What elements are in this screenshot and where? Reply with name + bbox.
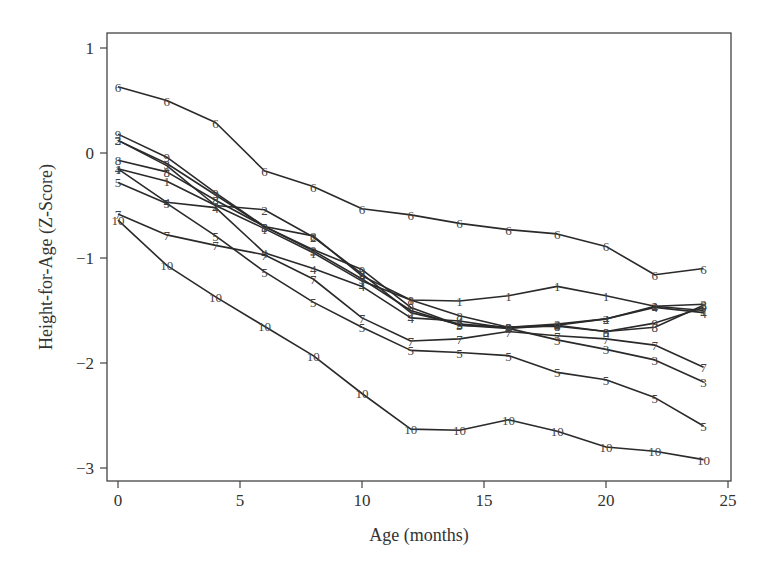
y-tick-label: −2 [76,354,94,373]
data-point-marker: 5 [164,196,171,211]
data-point-marker: 5 [700,419,707,434]
data-point-marker: 5 [310,295,317,310]
data-point-marker: 5 [505,349,512,364]
data-point-marker: 6 [212,116,219,131]
data-point-marker: 5 [554,365,561,380]
series-line [118,87,704,275]
data-point-marker: 6 [700,262,707,277]
data-point-marker: 9 [456,318,463,333]
data-point-marker: 10 [356,386,369,401]
series-6: 6666666666666 [115,80,708,283]
data-point-marker: 6 [310,180,317,195]
y-tick-label: −3 [76,459,94,478]
y-tick-label: 1 [86,39,95,58]
series-line [118,169,704,311]
y-tick-label: 0 [86,144,95,163]
data-point-marker: 2 [261,203,268,218]
data-point-marker: 10 [112,213,125,228]
data-point-marker: 6 [115,80,122,95]
x-axis: 0510152025 [114,481,737,510]
x-tick-label: 10 [354,491,371,510]
data-point-marker: 1 [456,294,463,309]
data-point-marker: 10 [258,319,271,334]
data-point-marker: 7 [652,338,659,353]
data-point-marker: 6 [408,208,415,223]
series-layer: 1111111111111222222222222233333333333334… [112,80,711,468]
x-tick-label: 5 [236,491,245,510]
data-point-marker: 3 [652,353,659,368]
data-point-marker: 6 [456,216,463,231]
data-point-marker: 10 [648,444,661,459]
data-point-marker: 1 [505,289,512,304]
data-point-marker: 10 [551,424,564,439]
data-point-marker: 10 [160,258,173,273]
data-point-marker: 9 [652,316,659,331]
data-point-marker: 7 [359,311,366,326]
data-point-marker: 8 [115,153,122,168]
data-point-marker: 8 [164,165,171,180]
plot-frame [107,33,731,481]
x-tick-label: 15 [476,491,493,510]
data-point-marker: 5 [603,373,610,388]
data-point-marker: 10 [697,453,710,468]
data-point-marker: 5 [115,175,122,190]
data-point-marker: 6 [359,202,366,217]
data-point-marker: 6 [603,239,610,254]
data-point-marker: 10 [209,290,222,305]
data-point-marker: 10 [502,413,515,428]
y-tick-label: −1 [76,249,94,268]
data-point-marker: 6 [164,94,171,109]
data-point-marker: 9 [261,220,268,235]
data-point-marker: 9 [212,186,219,201]
data-point-marker: 5 [456,346,463,361]
data-point-marker: 9 [115,127,122,142]
data-point-marker: 1 [603,289,610,304]
x-tick-label: 0 [114,491,123,510]
data-point-marker: 5 [652,391,659,406]
x-tick-label: 25 [720,491,737,510]
data-point-marker: 10 [453,423,466,438]
data-point-marker: 7 [456,332,463,347]
data-point-marker: 6 [652,268,659,283]
data-point-marker: 10 [600,440,613,455]
data-point-marker: 9 [359,263,366,278]
data-point-marker: 6 [554,227,561,242]
data-point-marker: 9 [408,300,415,315]
data-point-marker: 7 [408,334,415,349]
data-point-marker: 10 [404,422,417,437]
x-tick-label: 20 [598,491,615,510]
x-axis-title: Age (months) [369,525,468,546]
data-point-marker: 9 [554,318,561,333]
data-point-marker: 9 [164,150,171,165]
data-point-marker: 4 [652,300,659,315]
data-point-marker: 1 [554,279,561,294]
data-point-marker: 9 [603,325,610,340]
data-point-marker: 7 [700,360,707,375]
data-point-marker: 9 [700,300,707,315]
data-point-marker: 5 [261,265,268,280]
data-point-marker: 6 [505,223,512,238]
y-axis: 10−1−2−3 [76,39,107,478]
data-point-marker: 10 [307,349,320,364]
y-axis-title: Height-for-Age (Z-Score) [36,164,57,350]
series-9: 9999999999999 [115,127,707,339]
data-point-marker: 3 [700,375,707,390]
data-point-marker: 7 [212,238,219,253]
data-point-marker: 9 [505,320,512,335]
data-point-marker: 7 [164,228,171,243]
data-point-marker: 7 [261,248,268,263]
data-point-marker: 7 [310,272,317,287]
data-point-marker: 9 [310,243,317,258]
line-chart: 0510152025 10−1−2−3 11111111111112222222… [0,0,772,575]
data-point-marker: 6 [261,164,268,179]
